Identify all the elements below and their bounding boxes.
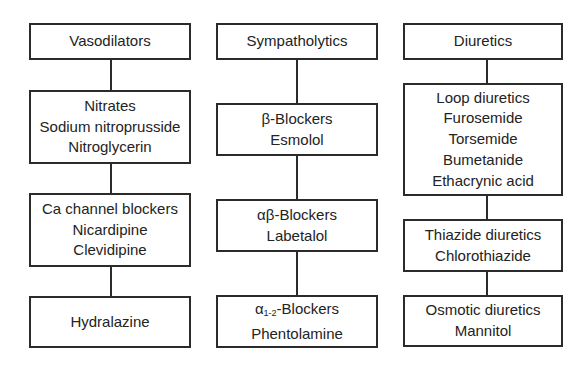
box-title: Nitrates xyxy=(84,96,136,117)
box-title: Loop diuretics xyxy=(436,88,529,109)
drug-name: Torsemide xyxy=(448,129,517,150)
alpha-symbol: α xyxy=(255,300,264,317)
drug-name: Bumetanide xyxy=(443,150,523,171)
header-box-sympatholytics: Sympatholytics xyxy=(216,23,378,60)
header-box-diuretics: Diuretics xyxy=(403,23,563,60)
drug-name: Mannitol xyxy=(455,321,512,342)
drug-name: Hydralazine xyxy=(70,312,149,333)
header-label: Vasodilators xyxy=(69,31,150,52)
box-alpha-1-2-blockers: α1-2-Blockers Phentolamine xyxy=(216,295,378,348)
subscript-1-2: 1-2 xyxy=(264,308,277,318)
connector-line xyxy=(296,59,298,103)
header-label: Diuretics xyxy=(454,31,512,52)
drug-name: Phentolamine xyxy=(251,324,343,345)
drug-name: Clevidipine xyxy=(73,240,146,261)
header-box-vasodilators: Vasodilators xyxy=(29,23,191,60)
connector-line xyxy=(486,59,488,83)
drug-name: Esmolol xyxy=(270,130,323,151)
connector-line xyxy=(486,271,488,295)
box-loop-diuretics: Loop diuretics Furosemide Torsemide Bume… xyxy=(403,83,563,196)
box-title: αβ-Blockers xyxy=(257,205,337,226)
box-thiazide-diuretics: Thiazide diuretics Chlorothiazide xyxy=(403,219,563,272)
box-title: Osmotic diuretics xyxy=(425,300,540,321)
drug-name: Chlorothiazide xyxy=(435,246,531,267)
drug-name: Sodium nitroprusside xyxy=(40,117,181,138)
box-title: β-Blockers xyxy=(261,109,332,130)
header-label: Sympatholytics xyxy=(247,31,348,52)
box-title: α1-2-Blockers xyxy=(255,299,339,324)
connector-line xyxy=(110,163,112,193)
box-title: Ca channel blockers xyxy=(42,199,178,220)
connector-line xyxy=(110,266,112,296)
connector-line xyxy=(110,59,112,90)
connector-line xyxy=(486,195,488,219)
connector-line xyxy=(296,251,298,295)
drug-name: Nicardipine xyxy=(72,220,147,241)
blockers-suffix: -Blockers xyxy=(277,300,340,317)
drug-name: Labetalol xyxy=(267,226,328,247)
box-nitrates: Nitrates Sodium nitroprusside Nitroglyce… xyxy=(29,90,191,164)
box-title: Thiazide diuretics xyxy=(425,225,542,246)
drug-name: Nitroglycerin xyxy=(68,137,151,158)
box-osmotic-diuretics: Osmotic diuretics Mannitol xyxy=(403,295,563,347)
box-ca-channel-blockers: Ca channel blockers Nicardipine Clevidip… xyxy=(29,193,191,267)
box-hydralazine: Hydralazine xyxy=(29,296,191,348)
drug-name: Ethacrynic acid xyxy=(432,171,534,192)
connector-line xyxy=(296,155,298,199)
drug-name: Furosemide xyxy=(443,108,522,129)
box-beta-blockers: β-Blockers Esmolol xyxy=(216,103,378,156)
box-alpha-beta-blockers: αβ-Blockers Labetalol xyxy=(216,199,378,252)
